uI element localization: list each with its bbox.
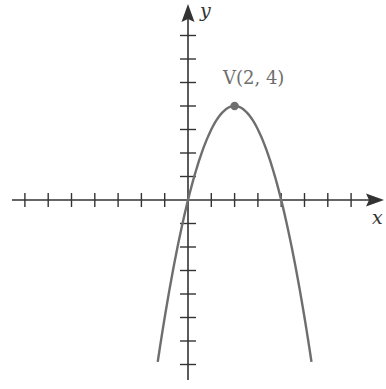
vertex-point — [230, 102, 238, 110]
parabola-curve — [158, 106, 312, 362]
y-axis-label: y — [199, 0, 211, 21]
x-axis-label: x — [372, 206, 383, 228]
vertex-label: V(2, 4) — [222, 67, 284, 88]
graph: x y V(2, 4) — [0, 0, 386, 389]
